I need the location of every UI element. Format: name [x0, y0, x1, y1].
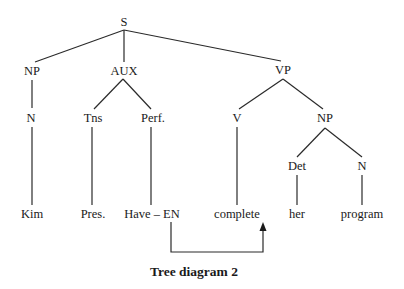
arrowhead-up-icon — [260, 222, 267, 231]
node-aux: AUX — [110, 64, 137, 78]
edge-vp-np2 — [283, 79, 323, 109]
edge-np2-n2 — [325, 128, 362, 157]
tree-diagram: SNPAUXVPNTnsPerf.VNPDetNKimPres.Have – E… — [0, 0, 404, 289]
node-vp: VP — [275, 63, 291, 77]
edge-np2-det — [297, 128, 325, 157]
node-kim: Kim — [21, 207, 44, 221]
node-n2: N — [357, 159, 366, 173]
movement-arrow — [171, 222, 267, 252]
tree-edges — [32, 30, 362, 205]
edge-s-vp — [124, 30, 281, 61]
diagram-caption: Tree diagram 2 — [150, 264, 238, 279]
node-np1: NP — [24, 64, 40, 78]
node-det: Det — [288, 159, 307, 173]
node-s: S — [121, 15, 128, 29]
movement-arrow-path — [171, 222, 263, 252]
edge-s-np1 — [35, 30, 124, 62]
node-perf: Perf. — [141, 111, 165, 125]
node-v: V — [232, 111, 241, 125]
edge-vp-v — [239, 79, 283, 109]
node-np2: NP — [317, 111, 333, 125]
edge-aux-perf — [123, 79, 151, 109]
node-tns: Tns — [84, 111, 103, 125]
node-haveen: Have – EN — [124, 207, 180, 221]
node-complete: complete — [214, 207, 260, 221]
edge-aux-tns — [94, 79, 123, 109]
node-program: program — [341, 207, 384, 221]
node-n1: N — [26, 111, 35, 125]
node-pres: Pres. — [81, 207, 106, 221]
node-her: her — [289, 207, 306, 221]
